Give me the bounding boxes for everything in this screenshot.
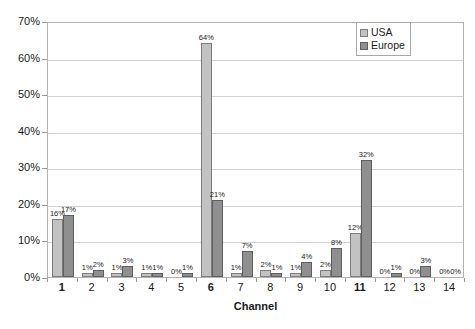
x-tick-label-6: 6 (196, 281, 226, 293)
legend-label-europe: Europe (371, 40, 405, 51)
bar-europe-12 (391, 273, 402, 277)
legend-item-usa: USA (360, 26, 405, 39)
bar-value-label: 3% (415, 257, 436, 265)
bar-europe-10 (331, 248, 342, 277)
x-tick-mark (107, 278, 108, 282)
y-axis: 0%10%20%30%40%50%60%70% (0, 0, 44, 329)
y-tick-label: 70% (18, 16, 40, 27)
bar-usa-3 (111, 273, 122, 277)
bar-usa-11 (350, 233, 361, 277)
bar-value-label: 64% (196, 34, 217, 42)
bar-usa-6 (201, 43, 212, 277)
bar-value-label: 1% (177, 264, 198, 272)
x-tick-label-1: 1 (47, 281, 77, 293)
bar-usa-7 (231, 273, 242, 277)
x-tick-mark (404, 278, 405, 282)
bars-layer: 16%17%1%2%1%3%1%1%0%1%64%21%1%7%2%1%1%4%… (48, 23, 463, 277)
x-tick-mark (166, 278, 167, 282)
y-tick-label: 60% (18, 53, 40, 64)
legend-label-usa: USA (371, 27, 393, 38)
x-tick-label-13: 13 (404, 281, 434, 293)
legend-item-europe: Europe (360, 39, 405, 52)
bar-value-label: 7% (237, 242, 258, 250)
x-tick-mark (315, 278, 316, 282)
x-tick-mark (196, 278, 197, 282)
x-tick-mark (136, 278, 137, 282)
bar-europe-2 (93, 270, 104, 277)
x-tick-label-2: 2 (77, 281, 107, 293)
y-tick-label: 40% (18, 126, 40, 137)
chart-legend: USA Europe (356, 22, 411, 56)
bar-europe-9 (301, 262, 312, 277)
bar-usa-2 (82, 273, 93, 277)
x-tick-label-4: 4 (136, 281, 166, 293)
x-axis-labels: 1234567891011121314 (47, 281, 464, 301)
bar-usa-4 (141, 273, 152, 277)
bar-europe-4 (152, 273, 163, 277)
bar-europe-3 (122, 266, 133, 277)
y-tick-label: 10% (18, 235, 40, 246)
y-tick-label: 20% (18, 199, 40, 210)
x-tick-label-12: 12 (375, 281, 405, 293)
bar-usa-9 (290, 273, 301, 277)
bar-value-label: 8% (326, 239, 347, 247)
bar-europe-1 (63, 215, 74, 277)
x-tick-mark (256, 278, 257, 282)
bar-value-label: 0% (445, 268, 466, 276)
bar-europe-7 (242, 251, 253, 277)
x-tick-mark (226, 278, 227, 282)
x-tick-mark (47, 278, 48, 282)
plot-area: 16%17%1%2%1%3%1%1%0%1%64%21%1%7%2%1%1%4%… (47, 22, 464, 278)
bar-europe-5 (182, 273, 193, 277)
x-tick-mark (285, 278, 286, 282)
x-tick-mark (345, 278, 346, 282)
y-tick-label: 30% (18, 162, 40, 173)
bar-usa-10 (320, 270, 331, 277)
x-tick-mark (464, 278, 465, 282)
x-tick-mark (434, 278, 435, 282)
x-axis-title: Channel (47, 300, 464, 312)
bar-europe-13 (420, 266, 431, 277)
bar-usa-1 (52, 219, 63, 278)
x-tick-mark (375, 278, 376, 282)
y-tick-label: 50% (18, 89, 40, 100)
x-tick-label-5: 5 (166, 281, 196, 293)
x-tick-label-8: 8 (255, 281, 285, 293)
x-tick-label-14: 14 (434, 281, 464, 293)
x-tick-mark (77, 278, 78, 282)
x-tick-label-9: 9 (285, 281, 315, 293)
bar-europe-11 (361, 160, 372, 277)
x-tick-label-7: 7 (226, 281, 256, 293)
x-tick-label-11: 11 (345, 281, 375, 293)
legend-swatch-europe-icon (360, 42, 368, 50)
bar-value-label: 32% (356, 151, 377, 159)
bar-europe-6 (212, 200, 223, 277)
bar-chart: 0%10%20%30%40%50%60%70% 16%17%1%2%1%3%1%… (0, 0, 475, 329)
bar-value-label: 21% (207, 191, 228, 199)
bar-value-label: 17% (58, 206, 79, 214)
x-tick-label-3: 3 (106, 281, 136, 293)
x-tick-label-10: 10 (315, 281, 345, 293)
y-tick-label: 0% (24, 272, 40, 283)
legend-swatch-usa-icon (360, 29, 368, 37)
bar-europe-8 (271, 273, 282, 277)
